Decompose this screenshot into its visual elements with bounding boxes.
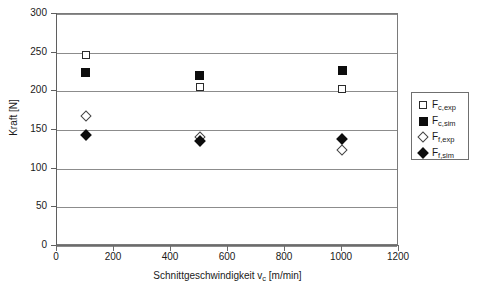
legend-label-subscript-1: c,sim (438, 119, 456, 128)
y-tick-100 (51, 168, 56, 169)
legend: Fc,expFc,simFf,expFf,sim (411, 92, 469, 160)
y-axis-line (56, 13, 57, 246)
open-diamond-icon (416, 130, 430, 144)
legend-label-2: Ff,exp (432, 132, 454, 143)
data-point-F-c-sim-500 (195, 71, 204, 80)
x-tick-label-1200: 1200 (378, 252, 418, 262)
data-point-F-c-exp-100 (82, 51, 90, 59)
data-point-F-c-exp-500 (196, 83, 204, 91)
y-tick-200 (51, 90, 56, 91)
data-point-F-c-sim-1000 (338, 66, 347, 75)
legend-label-1: Fc,sim (432, 116, 456, 127)
x-tick-label-600: 600 (207, 252, 247, 262)
y-tick-label-300: 300 (7, 8, 47, 18)
legend-label-3: Ff,sim (432, 148, 454, 159)
x-axis-title: Schnittgeschwindigkeit vc [m/min] (56, 270, 399, 281)
legend-item-2[interactable]: Ff,exp (416, 129, 468, 145)
gridline-y-300 (57, 14, 397, 15)
plot-area (56, 13, 398, 245)
gridline-y-50 (57, 207, 397, 208)
filled-square-icon (416, 114, 430, 128)
gridline-y-150 (57, 130, 397, 131)
gridline-y-100 (57, 169, 397, 170)
gridline-y-250 (57, 53, 397, 54)
data-point-F-f-exp-1000 (336, 144, 347, 155)
x-axis-title-subscript: c (262, 274, 266, 283)
data-point-F-f-exp-100 (80, 110, 91, 121)
y-tick-label-50: 50 (7, 201, 47, 211)
y-tick-250 (51, 52, 56, 53)
x-tick-label-400: 400 (150, 252, 190, 262)
legend-item-0[interactable]: Fc,exp (416, 97, 468, 113)
data-point-F-c-exp-1000 (338, 85, 346, 93)
legend-label-0: Fc,exp (432, 100, 456, 111)
y-tick-300 (51, 13, 56, 14)
x-axis-title-main: Schnittgeschwindigkeit v (153, 270, 262, 281)
y-tick-label-250: 250 (7, 47, 47, 57)
legend-item-3[interactable]: Ff,sim (416, 145, 468, 161)
data-point-F-c-sim-100 (81, 68, 90, 77)
x-tick-label-200: 200 (93, 252, 133, 262)
y-tick-label-0: 0 (7, 240, 47, 250)
chart-figure: 050100150200250300 020040060080010001200… (0, 0, 479, 295)
filled-diamond-icon (416, 146, 430, 160)
x-tick-label-800: 800 (264, 252, 304, 262)
x-tick-label-1000: 1000 (321, 252, 361, 262)
y-axis-title: Kraft [N] (8, 83, 19, 153)
y-tick-50 (51, 206, 56, 207)
legend-item-1[interactable]: Fc,sim (416, 113, 468, 129)
y-tick-150 (51, 129, 56, 130)
data-point-F-f-sim-100 (80, 130, 91, 141)
legend-label-subscript-2: f,exp (438, 135, 454, 144)
data-point-F-f-sim-1000 (336, 133, 347, 144)
legend-label-subscript-3: f,sim (438, 151, 454, 160)
x-tick-label-0: 0 (36, 252, 76, 262)
legend-label-subscript-0: c,exp (438, 103, 456, 112)
y-tick-label-100: 100 (7, 163, 47, 173)
x-axis-title-unit: [m/min] (266, 270, 302, 281)
open-square-icon (416, 98, 430, 112)
gridline-y-200 (57, 91, 397, 92)
